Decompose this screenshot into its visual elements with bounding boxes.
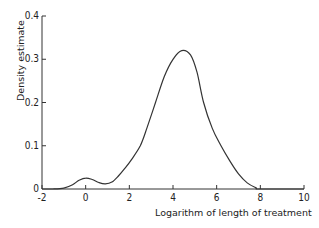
density-chart: -20246810 00.10.20.30.4 Logarithm of len… xyxy=(0,0,319,228)
y-ticks: 00.10.20.30.4 xyxy=(25,10,46,194)
x-axis-title: Logarithm of length of treatment xyxy=(155,207,312,218)
x-tick-label: 10 xyxy=(298,192,310,203)
y-tick-label: 0.3 xyxy=(25,53,39,64)
y-tick-label: 0.1 xyxy=(25,140,39,151)
y-tick-label: 0.2 xyxy=(25,97,39,108)
y-tick-label: 0 xyxy=(33,183,39,194)
x-tick-label: 4 xyxy=(170,192,176,203)
x-tick-label: 2 xyxy=(126,192,132,203)
density-curve xyxy=(42,50,304,189)
axes xyxy=(42,16,304,189)
x-ticks: -20246810 xyxy=(38,185,310,203)
x-tick-label: 0 xyxy=(83,192,89,203)
y-axis-title: Density estimate xyxy=(15,20,26,101)
y-tick-label: 0.4 xyxy=(25,10,40,21)
x-tick-label: 6 xyxy=(214,192,220,203)
x-tick-label: 8 xyxy=(257,192,263,203)
